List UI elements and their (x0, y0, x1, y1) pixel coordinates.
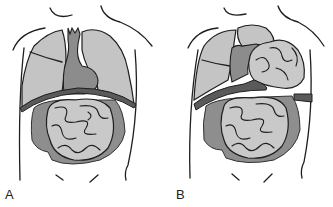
normal-anatomy-illustration (0, 0, 166, 207)
diaphragm-remnant (294, 94, 312, 102)
small-bowel (46, 99, 113, 160)
panel-a: A (0, 0, 166, 207)
panel-label-a: A (5, 188, 14, 201)
panel-label-b: B (176, 188, 185, 201)
small-bowel-abdominal (221, 97, 288, 158)
panel-b: B (166, 0, 333, 207)
herniation-illustration (166, 0, 333, 207)
